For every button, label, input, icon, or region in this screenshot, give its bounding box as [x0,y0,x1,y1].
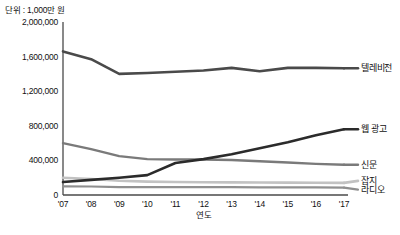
y-axis-tick-label: 1,600,000 [22,52,58,62]
series-line-2 [63,143,344,165]
x-axis-tick-label: '17 [339,199,350,209]
series-label-2: 신문 [361,160,377,170]
y-axis-tick-label: 400,000 [29,155,59,165]
chart-plot-area: 0400,000800,0001,200,0001,600,0002,000,0… [0,0,400,235]
series-label-4: 라디오 [361,185,385,195]
series-line-0 [63,51,344,73]
series-line-4 [63,186,344,187]
x-axis-tick-label: '15 [283,199,294,209]
x-axis-tick-label: '14 [254,199,265,209]
x-axis-title: 연도 [196,210,212,220]
x-axis-tick-label: '10 [142,199,153,209]
series-leader-3 [344,181,358,183]
y-axis-tick-label: 2,000,000 [22,17,58,27]
series-leader-4 [344,188,358,190]
x-axis-tick-label: '08 [86,199,97,209]
line-chart: 단위 : 1,000만 원 0400,000800,0001,200,0001,… [0,0,400,235]
y-axis-tick-label: 800,000 [29,121,59,131]
x-axis-tick-label: '11 [170,199,180,209]
series-label-1: 웹 광고 [361,123,387,134]
x-axis-tick-label: '12 [198,199,209,209]
series-line-1 [63,129,344,182]
series-label-0: 텔레비전 [361,62,392,73]
x-axis-tick-label: '16 [311,199,322,209]
x-axis-tick-label: '07 [58,199,69,209]
y-axis-tick-label: 1,200,000 [22,86,58,96]
x-axis-tick-label: '13 [226,199,237,209]
x-axis-tick-label: '09 [114,199,125,209]
